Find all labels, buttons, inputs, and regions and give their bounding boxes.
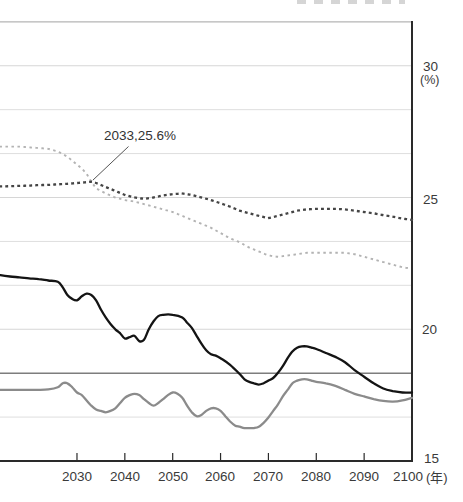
x-axis-tick-label-2080: 2080 (294, 469, 338, 485)
x-axis-tick-label-2100: 2100 (388, 469, 428, 485)
y-axis-tick-label-30: 30 (423, 60, 438, 74)
series-light-dotted-projection (0, 147, 412, 269)
y-axis-tick-label-25: 25 (423, 193, 438, 207)
series-black-solid-series (0, 275, 412, 392)
chart-screenshot: 30 (%) 25 20 15 2030 2040 2050 2060 2070… (0, 0, 463, 502)
y-axis-tick-label-15: 15 (424, 452, 439, 466)
x-axis-unit-label: (年) (426, 470, 448, 486)
y-axis-unit-label: (%) (420, 74, 439, 87)
x-axis-tick-label-2070: 2070 (246, 469, 290, 485)
y-axis-tick-label-20: 20 (422, 323, 437, 337)
x-axis-tick-label-2060: 2060 (198, 469, 242, 485)
x-axis-tick-label-2040: 2040 (103, 469, 147, 485)
series-dark-dotted-projection (0, 182, 412, 220)
annotation-leader-line (93, 147, 129, 181)
x-axis-tick-label-2030: 2030 (55, 469, 99, 485)
x-axis-tick-label-2050: 2050 (151, 469, 195, 485)
x-axis-tick-label-2090: 2090 (342, 469, 386, 485)
series-gray-solid-series (0, 379, 412, 428)
line-chart-plot-area (0, 0, 463, 502)
annotation-2033-peak: 2033,25.6% (104, 128, 176, 143)
